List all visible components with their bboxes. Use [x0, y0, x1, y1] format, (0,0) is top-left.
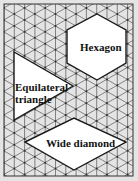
wide-diamond-label: Wide diamond	[46, 137, 115, 149]
hexagon-label: Hexagon	[80, 41, 122, 53]
triangle-label: Equilateral triangle	[15, 81, 68, 105]
isometric-diagram: Hexagon Equilateral triangle Wide diamon…	[0, 0, 138, 181]
triangle-label-line2: triangle	[15, 93, 68, 105]
triangle-label-line1: Equilateral	[15, 81, 68, 93]
